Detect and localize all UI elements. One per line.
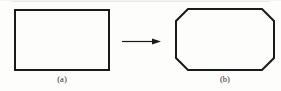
figure-container: (a) (b) (0, 0, 281, 91)
transform-arrow (122, 39, 161, 45)
shape-octagon-b (176, 9, 274, 70)
shape-rectangle-a (15, 10, 109, 70)
panel-label-a: (a) (0, 74, 124, 84)
panel-label-b: (b) (168, 74, 281, 84)
arrow-head-icon (152, 39, 161, 45)
